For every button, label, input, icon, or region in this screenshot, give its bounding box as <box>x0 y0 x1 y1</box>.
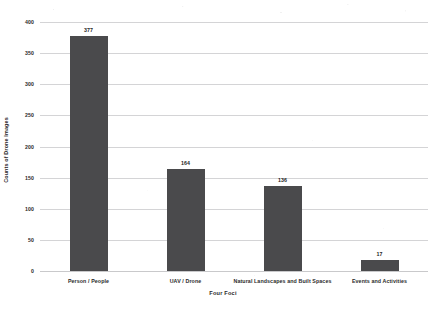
y-axis-title: Counts of Drone Images <box>3 117 9 183</box>
y-axis-tick-label: 200 <box>4 144 34 150</box>
y-axis-tick-label: 400 <box>4 19 34 25</box>
y-axis-tick-label: 150 <box>4 175 34 181</box>
y-axis-tick-label: 50 <box>4 237 34 243</box>
x-axis-category-label: UAV / Drone <box>170 278 202 284</box>
x-axis-title: Four Foci <box>0 290 446 296</box>
x-axis-category-label: Events and Activities <box>352 278 407 284</box>
bar <box>361 260 399 271</box>
bar-group: 136Natural Landscapes and Built Spaces <box>234 22 331 271</box>
bar <box>167 169 205 271</box>
x-axis-category-label: Natural Landscapes and Built Spaces <box>234 278 332 284</box>
bar-group: 377Person / People <box>40 22 137 271</box>
gridline <box>40 271 428 272</box>
bar-group: 17Events and Activities <box>331 22 428 271</box>
x-axis-category-label: Person / People <box>68 278 109 284</box>
bar-value-label: 17 <box>376 251 382 257</box>
bar-value-label: 377 <box>84 27 93 33</box>
bar-value-label: 136 <box>278 177 287 183</box>
plot-area: 400350300250200150100500 377Person / Peo… <box>40 22 428 271</box>
y-axis-tick-label: 300 <box>4 81 34 87</box>
y-axis-tick-label: 250 <box>4 112 34 118</box>
y-axis-tick-label: 350 <box>4 50 34 56</box>
bar <box>70 36 108 271</box>
y-axis-tick-label: 0 <box>4 268 34 274</box>
bar-chart: Counts of Drone Images 40035030025020015… <box>0 0 446 313</box>
bar <box>264 186 302 271</box>
bar-value-label: 164 <box>181 160 190 166</box>
y-axis-tick-label: 100 <box>4 206 34 212</box>
bar-group: 164UAV / Drone <box>137 22 234 271</box>
